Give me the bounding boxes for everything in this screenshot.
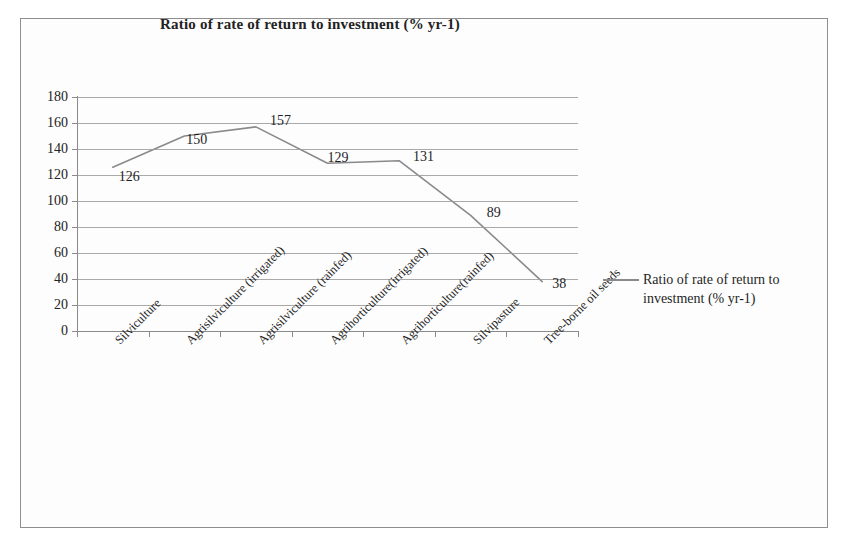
data-point-label: 38	[552, 277, 566, 291]
gridline	[77, 201, 578, 202]
gridline	[77, 227, 578, 228]
y-axis-tick-label: 180	[28, 90, 68, 104]
data-point-label: 126	[119, 170, 140, 184]
legend-label: Ratio of rate of return to investment (%…	[643, 270, 818, 308]
x-axis-tick-mark	[149, 331, 150, 337]
y-axis-tick-label: 120	[28, 168, 68, 182]
gridline	[77, 253, 578, 254]
y-axis-tick-mark	[72, 175, 78, 176]
data-point-label: 89	[487, 206, 501, 220]
data-point-label: 157	[270, 114, 291, 128]
x-axis-tick-mark	[220, 331, 221, 337]
gridline	[77, 123, 578, 124]
gridline	[77, 175, 578, 176]
x-axis-tick-mark	[77, 331, 78, 337]
data-point-label: 150	[186, 133, 207, 147]
y-axis-tick-mark	[72, 123, 78, 124]
legend-line-swatch	[603, 279, 639, 281]
y-axis-tick-mark	[72, 305, 78, 306]
data-point-label: 129	[328, 151, 349, 165]
y-axis-tick-label: 80	[28, 220, 68, 234]
y-axis-tick-mark	[72, 253, 78, 254]
y-axis-tick-mark	[72, 149, 78, 150]
y-axis-tick-label: 140	[28, 142, 68, 156]
y-axis-tick-mark	[72, 279, 78, 280]
x-axis-tick-mark	[363, 331, 364, 337]
y-axis-tick-label: 40	[28, 272, 68, 286]
y-axis-tick-label: 20	[28, 298, 68, 312]
y-axis-tick-label: 60	[28, 246, 68, 260]
x-axis-tick-mark	[578, 331, 579, 337]
x-axis-category-labels: SilvicultureAgrisilviculture (irrigated)…	[77, 334, 578, 484]
y-axis-tick-mark	[72, 227, 78, 228]
chart-title: Ratio of rate of return to investment (%…	[0, 16, 620, 33]
legend: Ratio of rate of return to investment (%…	[603, 270, 818, 308]
y-axis-tick-label: 100	[28, 194, 68, 208]
y-axis-tick-mark	[72, 97, 78, 98]
gridline	[77, 97, 578, 98]
y-axis-tick-label: 160	[28, 116, 68, 130]
gridline	[77, 331, 578, 332]
x-axis-tick-mark	[506, 331, 507, 337]
y-axis-tick-labels: 180160140120100806040200	[22, 0, 68, 553]
data-point-label: 131	[413, 150, 434, 164]
y-axis-tick-label: 0	[28, 324, 68, 338]
x-axis-tick-mark	[435, 331, 436, 337]
y-axis-tick-mark	[72, 201, 78, 202]
x-axis-tick-mark	[292, 331, 293, 337]
